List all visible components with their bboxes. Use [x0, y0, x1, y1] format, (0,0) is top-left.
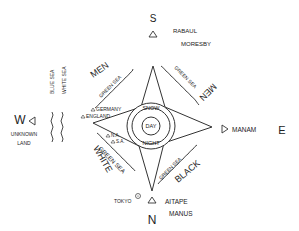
manus-label: MANUS — [169, 210, 193, 217]
night-label: NIGHT — [142, 140, 160, 146]
snow-label: SNOW — [142, 105, 160, 111]
england-label: ENGLAND — [86, 113, 111, 119]
tokyo-label: TOKYO — [114, 198, 132, 204]
south-triangle-icon — [149, 31, 157, 37]
white-sea-label: WHITE SEA — [61, 66, 67, 94]
men-ne-label: MEN — [197, 82, 218, 103]
west-triangle-icon — [29, 117, 35, 125]
green-sea-nw-label: GREEN SEA — [97, 73, 122, 98]
sa-label: S.A. — [116, 139, 125, 144]
wavy-line-blue-sea — [51, 112, 53, 142]
men-nw-label: MEN — [88, 60, 110, 80]
wavy-boundaries — [51, 66, 199, 184]
rabaul-label: RABAUL — [173, 28, 198, 34]
aitape-label: AITAPE — [165, 198, 188, 205]
north-label: N — [148, 213, 157, 227]
east-triangle-icon — [222, 125, 228, 133]
na-triangle-icon — [106, 134, 110, 137]
west-label: W — [14, 113, 26, 127]
tokyo-marker-dot — [137, 195, 138, 196]
moresby-label: MORESBY — [181, 41, 211, 47]
germany-label: GERMANY — [96, 106, 122, 112]
wavy-line-white-sea — [61, 112, 63, 142]
manam-label: MANAM — [232, 126, 256, 133]
north-triangle-icon — [148, 197, 156, 203]
green-sea-ne-label: GREEN SEA — [173, 64, 198, 89]
england-triangle-icon — [81, 115, 85, 118]
cosmology-diagram: SNOW DAY NIGHT S N W E RABAUL MORESBY MA… — [0, 0, 299, 231]
blue-sea-label: BLUE SEA — [49, 69, 55, 94]
east-label: E — [278, 124, 285, 136]
day-label: DAY — [146, 123, 157, 129]
south-label: S — [150, 13, 157, 24]
sa-triangle-icon — [111, 140, 115, 143]
unknown-land-label-2: LAND — [17, 140, 31, 146]
germany-triangle-icon — [91, 108, 95, 111]
na-label: N.A. — [111, 133, 120, 138]
unknown-land-label-1: UNKNOWN — [11, 131, 38, 137]
